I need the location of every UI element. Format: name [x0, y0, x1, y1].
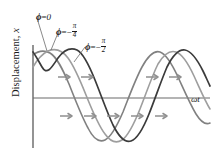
arrow-right-icon — [155, 114, 167, 119]
annotation-phase-minus-pi-4: ϕ=− π 4 — [56, 22, 77, 39]
numerator: π — [101, 38, 107, 46]
phase-shift-arrows-lower — [60, 114, 167, 119]
arrow-right-icon — [58, 75, 70, 80]
fraction-pi-over-2: π 2 — [101, 38, 107, 54]
denominator: 2 — [101, 46, 107, 55]
annotation-phase-minus-pi-2: ϕ=− π 2 — [85, 37, 106, 54]
denominator: 4 — [72, 31, 78, 40]
y-axis-label-variable: x — [10, 28, 21, 33]
phase-constant-wave-figure: ϕ=0 ϕ=− π 4 ϕ=− π 2 Displacement, x ωt — [0, 0, 215, 151]
numerator: π — [72, 23, 78, 31]
arrow-right-icon — [84, 114, 96, 119]
arrow-right-icon — [60, 114, 72, 119]
annotation-phase-zero: ϕ=0 — [36, 7, 51, 23]
phase-value: 0 — [47, 12, 52, 22]
wave-plot — [0, 0, 215, 151]
arrow-right-icon — [81, 75, 93, 80]
x-axis-label: ωt — [191, 94, 200, 104]
y-axis-label: Displacement, x — [10, 20, 21, 106]
curve-phase-0 — [33, 51, 210, 141]
arrow-right-icon — [169, 75, 181, 80]
y-axis-label-text: Displacement, — [10, 35, 21, 97]
fraction-pi-over-4: π 4 — [72, 23, 78, 39]
